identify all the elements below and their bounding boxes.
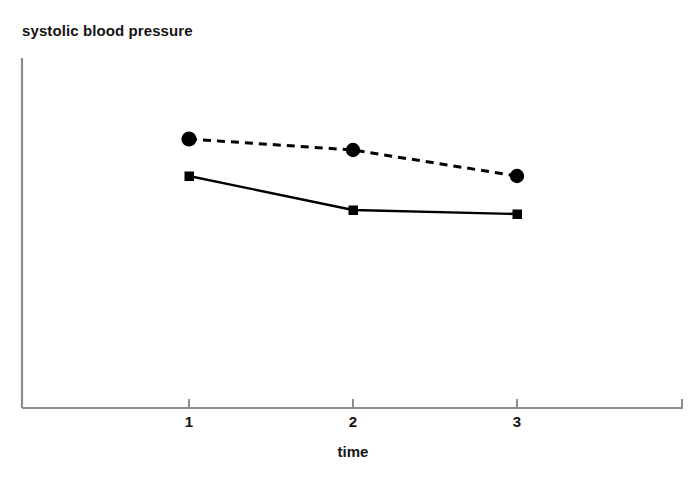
x-tick-label-3: 3 [513, 413, 521, 430]
square-marker-t2 [349, 206, 359, 216]
square-marker-t3 [513, 210, 523, 220]
circle-marker-t1 [181, 131, 196, 146]
circle-marker-t2 [346, 143, 360, 157]
chart-figure: systolic blood pressure 1 2 3 time [0, 0, 700, 488]
square-marker-t1 [185, 172, 195, 182]
x-tick-label-1: 1 [185, 413, 193, 430]
x-tick-label-2: 2 [349, 413, 357, 430]
circle-marker-t3 [510, 169, 524, 183]
x-axis-label: time [338, 443, 369, 460]
